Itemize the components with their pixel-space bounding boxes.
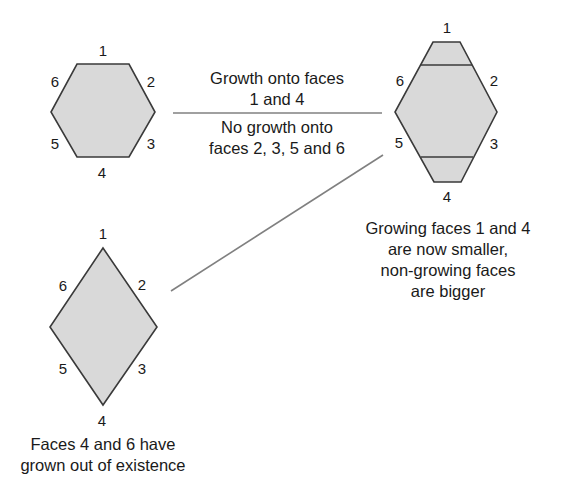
grown-face-label-4: 4 bbox=[443, 189, 451, 204]
final-diamond bbox=[50, 248, 157, 405]
diamond-face-label-6: 6 bbox=[59, 278, 67, 293]
grown-face-label-6: 6 bbox=[396, 73, 404, 88]
initial-hexagon bbox=[51, 64, 155, 157]
diamond-face-label-1: 1 bbox=[99, 226, 107, 241]
diamond-caption: Faces 4 and 6 have grown out of existenc… bbox=[20, 434, 185, 476]
diamond-face-label-5: 5 bbox=[59, 361, 67, 376]
diamond-face-label-2: 2 bbox=[138, 277, 146, 292]
diamond-face-label-4: 4 bbox=[98, 413, 106, 428]
connector-line bbox=[171, 155, 383, 291]
initial-face-label-5: 5 bbox=[51, 136, 59, 151]
grown-hexagon bbox=[395, 42, 497, 182]
initial-face-label-1: 1 bbox=[99, 43, 107, 58]
initial-face-label-4: 4 bbox=[98, 165, 106, 180]
initial-face-label-6: 6 bbox=[51, 74, 59, 89]
initial-face-label-3: 3 bbox=[147, 136, 155, 151]
growth-label-above: Growth onto faces 1 and 4 bbox=[210, 68, 344, 110]
grown-face-label-1: 1 bbox=[443, 20, 451, 35]
grown-face-label-2: 2 bbox=[490, 73, 498, 88]
initial-face-label-2: 2 bbox=[147, 74, 155, 89]
grown-face-label-5: 5 bbox=[395, 135, 403, 150]
diamond-face-label-3: 3 bbox=[138, 361, 146, 376]
grown-hexagon-caption: Growing faces 1 and 4 are now smaller, n… bbox=[365, 218, 530, 302]
grown-face-label-3: 3 bbox=[490, 136, 498, 151]
growth-label-below: No growth onto faces 2, 3, 5 and 6 bbox=[209, 117, 345, 159]
